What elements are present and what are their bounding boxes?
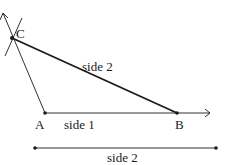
label-a: A bbox=[35, 117, 45, 132]
label-c: C bbox=[16, 26, 25, 41]
point-c bbox=[10, 36, 14, 40]
triangle-construction-diagram: C side 2 A side 1 B side 2 bbox=[0, 0, 228, 165]
reference-endpoint-right bbox=[214, 146, 218, 150]
point-b bbox=[175, 111, 179, 115]
reference-endpoint-left bbox=[33, 146, 37, 150]
label-b: B bbox=[175, 117, 184, 132]
label-side2-reference: side 2 bbox=[107, 150, 138, 165]
segment-cb bbox=[12, 38, 177, 113]
point-a bbox=[43, 111, 47, 115]
label-side1: side 1 bbox=[64, 117, 95, 132]
label-side2-cb: side 2 bbox=[82, 59, 113, 74]
